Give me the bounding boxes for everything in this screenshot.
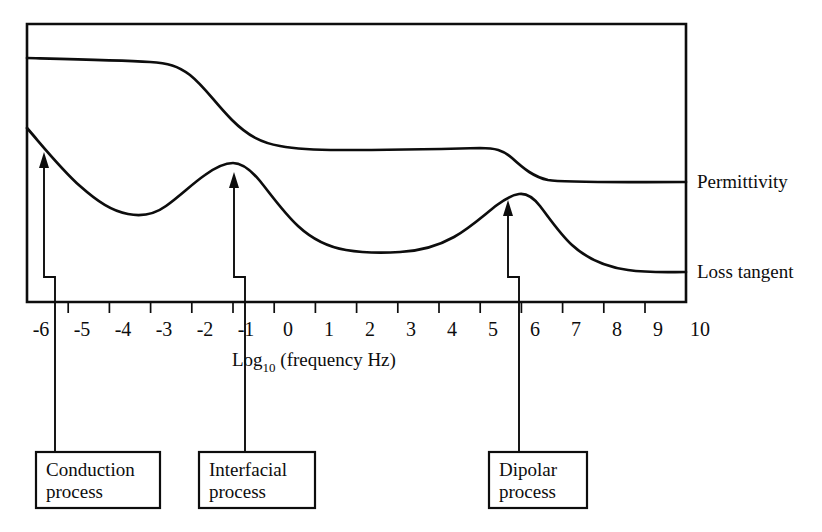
- x-axis-title-base: Log: [232, 349, 263, 370]
- dipolar-leader-line: [508, 212, 519, 452]
- x-axis-title-rest: (frequency Hz): [276, 349, 396, 371]
- plot-frame: [27, 24, 686, 302]
- x-tick-label: 9: [653, 318, 663, 340]
- x-tick-label: 3: [406, 318, 416, 340]
- x-tick-label: 4: [447, 318, 457, 340]
- x-tick-label: -5: [74, 318, 91, 340]
- dipolar-callout-line2: process: [499, 481, 556, 502]
- annotation-conduction: Conduction process: [36, 152, 160, 508]
- conduction-callout-line2: process: [46, 481, 103, 502]
- x-tick-label: 10: [690, 318, 710, 340]
- conduction-callout-line1: Conduction: [46, 459, 135, 480]
- x-axis-ticks: [68, 302, 645, 313]
- conduction-leader-line: [44, 164, 55, 452]
- x-tick-label: -2: [197, 318, 214, 340]
- loss-tangent-label: Loss tangent: [697, 261, 794, 282]
- x-tick-label: 0: [283, 318, 293, 340]
- interfacial-arrow-head: [229, 172, 239, 188]
- x-tick-label: 6: [530, 318, 540, 340]
- permittivity-curve: [27, 58, 686, 182]
- x-axis-title: Log10 (frequency Hz): [232, 349, 396, 375]
- x-tick-label: 2: [365, 318, 375, 340]
- x-tick-label: -6: [33, 318, 50, 340]
- x-tick-label: 8: [612, 318, 622, 340]
- x-axis-title-subscript: 10: [263, 360, 276, 375]
- interfacial-callout-line1: Interfacial: [209, 459, 287, 480]
- dipolar-arrow-head: [503, 200, 513, 216]
- x-tick-label: -4: [115, 318, 132, 340]
- conduction-arrow-head: [39, 152, 49, 168]
- permittivity-label: Permittivity: [697, 171, 788, 192]
- interfacial-callout-line2: process: [209, 481, 266, 502]
- x-tick-label: 5: [488, 318, 498, 340]
- dielectric-response-chart: -6 -5 -4 -3 -2 -1 0 1 2 3 4 5 6 7 8 9 10…: [0, 0, 822, 532]
- dipolar-callout-line1: Dipolar: [499, 459, 558, 480]
- x-tick-label: 1: [324, 318, 334, 340]
- x-tick-label: -1: [238, 318, 255, 340]
- x-axis-tick-labels: -6 -5 -4 -3 -2 -1 0 1 2 3 4 5 6 7 8 9 10: [33, 318, 710, 340]
- x-tick-label: -3: [156, 318, 173, 340]
- annotation-interfacial: Interfacial process: [199, 172, 315, 508]
- x-tick-label: 7: [571, 318, 581, 340]
